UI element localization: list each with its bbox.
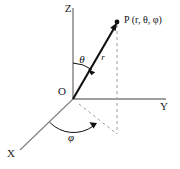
z-axis-label: Z — [65, 2, 72, 14]
x-axis-label: X — [7, 147, 15, 159]
phi-label: φ — [68, 131, 74, 143]
axes-group — [20, 8, 166, 150]
diagram-canvas: Z Y X O θ r φ P (r, θ, φ) — [0, 0, 180, 169]
spherical-coordinates-figure: Z Y X O θ r φ P (r, θ, φ) — [0, 0, 180, 169]
theta-label: θ — [79, 53, 85, 65]
x-axis-line — [20, 99, 73, 150]
origin-label: O — [58, 85, 66, 97]
point-p-marker — [115, 20, 120, 25]
y-axis-label: Y — [160, 100, 168, 112]
origin-to-projection-dashed-line — [79, 104, 117, 134]
point-p-label: P (r, θ, φ) — [124, 14, 162, 26]
radius-label: r — [101, 52, 105, 62]
